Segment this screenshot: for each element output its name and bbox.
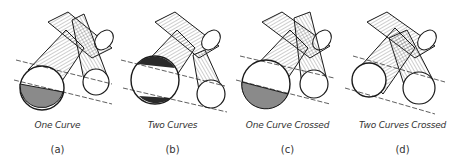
- two-curves-crossed-drawing: [345, 0, 460, 120]
- one-curve-crossed-drawing: [230, 0, 345, 120]
- panel-c: One Curve Crossed (c): [230, 0, 345, 164]
- panel-label: (b): [115, 144, 230, 155]
- one-curve-drawing: [0, 0, 115, 120]
- panel-label: (d): [345, 144, 460, 155]
- caption: Two Curves: [115, 120, 230, 130]
- caption: One Curve Crossed: [230, 120, 345, 130]
- two-curves-drawing: [115, 0, 230, 120]
- caption: One Curve: [0, 120, 115, 130]
- panel-b: Two Curves (b): [115, 0, 230, 164]
- caption: Two Curves Crossed: [345, 120, 460, 130]
- panel-d: Two Curves Crossed (d): [345, 0, 460, 164]
- panel-label: (a): [0, 144, 115, 155]
- panel-label: (c): [230, 144, 345, 155]
- panel-a: One Curve (a): [0, 0, 115, 164]
